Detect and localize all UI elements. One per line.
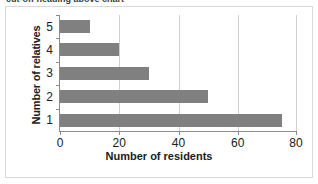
bar-relatives-2 xyxy=(60,90,208,103)
cut-off-caption-text: cut-off heading above chart xyxy=(6,0,124,4)
x-tick-label-0: 0 xyxy=(57,136,64,150)
plot-area: 5 4 3 2 1 0 xyxy=(59,15,296,132)
bar-relatives-5 xyxy=(60,20,90,33)
y-tick-label-5: 5 xyxy=(46,20,53,34)
x-tick-label-20: 20 xyxy=(113,136,126,150)
y-tick-label-1: 1 xyxy=(46,113,53,127)
x-tick-label-60: 60 xyxy=(231,136,244,150)
bar-relatives-3 xyxy=(60,67,149,80)
y-tick-label-2: 2 xyxy=(46,90,53,104)
x-tick-80 xyxy=(296,131,297,135)
bar-row: 4 xyxy=(60,38,296,61)
bar-row: 1 xyxy=(60,109,296,132)
bar-relatives-1 xyxy=(60,114,282,127)
bar-relatives-4 xyxy=(60,43,119,56)
x-axis-title: Number of residents xyxy=(6,150,312,162)
bar-chart-figure: cut-off heading above chart Number of re… xyxy=(0,0,318,184)
y-axis-title: Number of relatives xyxy=(30,15,42,135)
x-tick-label-40: 40 xyxy=(172,136,185,150)
gridline-80 xyxy=(296,15,297,131)
cut-off-caption: cut-off heading above chart xyxy=(0,0,318,5)
x-tick-label-80: 80 xyxy=(289,136,302,150)
bar-row: 5 xyxy=(60,15,296,38)
chart-frame: Number of relatives 5 xyxy=(5,6,313,178)
y-tick-label-4: 4 xyxy=(46,43,53,57)
y-tick-label-3: 3 xyxy=(46,66,53,80)
bar-row: 3 xyxy=(60,62,296,85)
bar-row: 2 xyxy=(60,85,296,108)
